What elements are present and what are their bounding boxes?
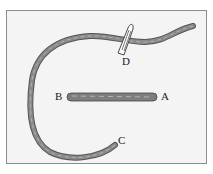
- label-a: A: [161, 91, 169, 102]
- label-d: D: [122, 56, 130, 67]
- stitch-illustration: [0, 0, 213, 174]
- label-c: C: [118, 135, 125, 146]
- label-b: B: [55, 91, 62, 102]
- stitch-b-a: [67, 93, 157, 101]
- diagram-canvas: D B A C: [0, 0, 213, 174]
